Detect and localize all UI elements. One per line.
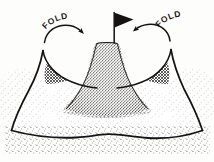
figure-canvas: FOLD FOLD	[0, 0, 214, 162]
fold-label-right: FOLD	[153, 9, 181, 30]
fold-label-right-text: FOLD	[153, 9, 181, 30]
svg-text:FOLD: FOLD	[153, 9, 181, 30]
black-triangular-pennant-flag	[115, 13, 134, 28]
stippled-ground-shadow	[0, 124, 214, 156]
right-fold-arrow	[136, 24, 171, 41]
